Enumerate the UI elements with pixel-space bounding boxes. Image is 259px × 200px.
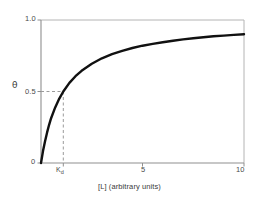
kd-symbol-subscript: d	[61, 169, 64, 175]
x-axis-tick-label-kd: Kd	[56, 166, 64, 175]
binding-curve-plot	[0, 0, 259, 200]
y-axis-tick-label-top: 1.0	[25, 14, 36, 23]
binding-curve-line	[41, 34, 244, 163]
x-axis-tick-label-10: 10	[236, 165, 245, 174]
y-axis-title: θ	[12, 80, 18, 90]
chart-figure: 1.0 0.5 0 Kd 5 10 θ [L] (arbitrary units…	[0, 0, 259, 200]
x-axis-tick-label-5: 5	[141, 165, 145, 174]
y-axis-tick-label-zero: 0	[31, 157, 35, 166]
y-axis-tick-label-half: 0.5	[25, 87, 36, 96]
x-axis-title: [L] (arbitrary units)	[0, 182, 259, 191]
